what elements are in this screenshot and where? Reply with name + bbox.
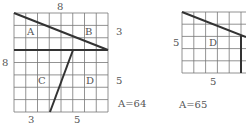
right-fig-bottom-label: 5 — [210, 76, 216, 87]
left-side-label: 8 — [2, 57, 8, 68]
right-top-label: 3 — [116, 26, 122, 37]
region-a-label: A — [26, 26, 35, 37]
left-area-label: A=64 — [117, 98, 146, 109]
region-d-label: D — [86, 75, 94, 86]
right-area-label: A=65 — [178, 99, 207, 110]
bottom-left-label: 3 — [28, 114, 34, 124]
right-bottom-label: 5 — [116, 75, 122, 86]
missing-square-puzzle: 8 8 3 5 3 5 A B C D A=64 5 D 5 A=65 — [0, 0, 246, 124]
right-fig-side-label: 5 — [173, 37, 179, 48]
right-fig-region-d-label: D — [209, 37, 217, 48]
region-b-label: B — [85, 26, 92, 37]
left-top-label: 8 — [57, 1, 63, 12]
bottom-right-label: 5 — [74, 114, 80, 124]
region-c-label: C — [38, 75, 46, 86]
